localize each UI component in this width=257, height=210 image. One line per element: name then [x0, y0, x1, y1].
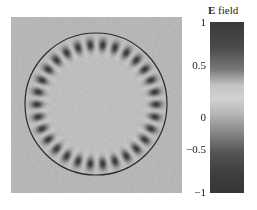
colorbar [210, 22, 244, 193]
colorbar-tick: 0.5 [176, 59, 206, 71]
colorbar-tick: 1 [176, 16, 206, 28]
e-field-map [11, 17, 182, 193]
colorbar-tick: −0.5 [176, 143, 206, 155]
colorbar-tick: −1 [176, 186, 206, 198]
colorbar-title: E field [208, 4, 238, 16]
colorbar-tick: 0 [176, 111, 206, 123]
